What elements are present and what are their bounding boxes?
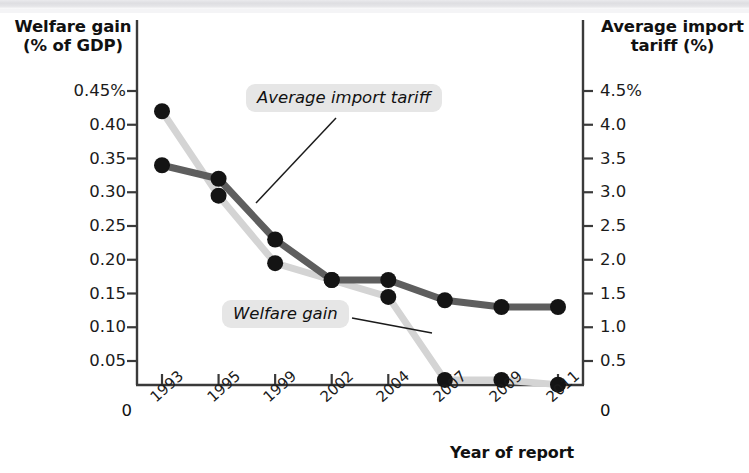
right-axis-tick-label: 1.5 — [600, 286, 626, 303]
data-point — [380, 289, 396, 305]
callout-average-import-tariff: Average import tariff — [246, 84, 442, 112]
left-axis-ticks — [127, 91, 137, 361]
right-axis-tick-label: 4.0 — [600, 117, 626, 134]
data-point — [211, 188, 227, 204]
data-point — [267, 255, 283, 271]
left-axis-tick-label: 0.25 — [40, 218, 126, 235]
data-points-welfare-gain — [154, 103, 566, 392]
left-axis-tick-label: 0.05 — [40, 353, 126, 370]
right-axis-tick-label: 3.5 — [600, 151, 626, 168]
data-point — [267, 232, 283, 248]
data-point — [380, 272, 396, 288]
right-axis-tick-label: 2.0 — [600, 252, 626, 269]
right-axis-tick-label: 3.0 — [600, 184, 626, 201]
plot-area — [0, 0, 749, 473]
left-axis-tick-label: 0.15 — [40, 286, 126, 303]
series-line-welfare-gain — [162, 111, 558, 384]
left-axis-tick-label: 0.20 — [40, 252, 126, 269]
leader-line-tariff — [256, 118, 336, 203]
data-point — [154, 157, 170, 173]
left-axis-tick-label: 0.45% — [40, 83, 126, 100]
data-point — [550, 299, 566, 315]
left-axis-tick-label: 0.35 — [40, 151, 126, 168]
chart-figure: Welfare gain (% of GDP) Average import t… — [0, 0, 749, 473]
data-point — [493, 299, 509, 315]
right-axis-tick-label: 0.5 — [600, 353, 626, 370]
left-axis-tick-label: 0.30 — [40, 184, 126, 201]
callout-welfare-gain: Welfare gain — [222, 300, 349, 328]
left-axis-tick-label: 0.10 — [40, 319, 126, 336]
data-point — [154, 103, 170, 119]
right-axis-tick-label: 2.5 — [600, 218, 626, 235]
data-point — [437, 292, 453, 308]
right-axis-ticks — [583, 91, 593, 361]
data-point — [211, 171, 227, 187]
right-axis-tick-label: 4.5% — [600, 83, 642, 100]
data-point — [324, 272, 340, 288]
leader-line-welfare — [352, 318, 432, 333]
right-axis-tick-label: 1.0 — [600, 319, 626, 336]
left-axis-tick-label: 0.40 — [40, 117, 126, 134]
